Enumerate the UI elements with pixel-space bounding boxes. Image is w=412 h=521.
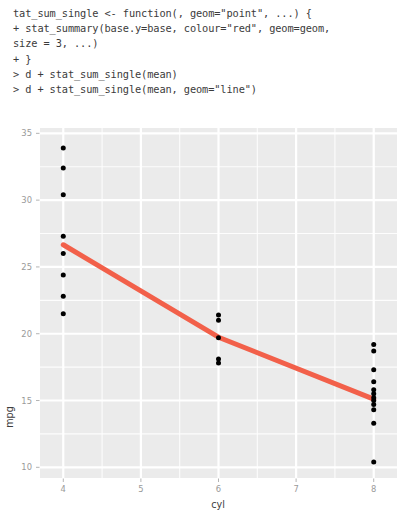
scatter-point bbox=[371, 402, 376, 407]
y-axis-title: mpg bbox=[4, 406, 15, 428]
scatter-point bbox=[216, 361, 221, 366]
scatter-point bbox=[61, 294, 66, 299]
y-tick-label: 30 bbox=[21, 195, 32, 205]
x-tick-label: 7 bbox=[293, 484, 298, 494]
scatter-point bbox=[216, 313, 221, 318]
scatter-point bbox=[371, 407, 376, 412]
x-tick-label: 4 bbox=[61, 484, 66, 494]
plot-canvas: 101520253035 45678 mpg cyl bbox=[0, 112, 412, 512]
scatter-point bbox=[371, 379, 376, 384]
scatter-point bbox=[216, 318, 221, 323]
x-axis-ticks: 45678 bbox=[61, 479, 377, 495]
y-tick-label: 20 bbox=[21, 329, 32, 339]
scatter-point bbox=[61, 272, 66, 277]
y-axis-ticks: 101520253035 bbox=[21, 128, 39, 472]
code-line: > d + stat_sum_single(mean) bbox=[13, 67, 403, 82]
scatter-point bbox=[371, 459, 376, 464]
code-line: tat_sum_single <- function(, geom="point… bbox=[13, 6, 403, 21]
scatter-point bbox=[371, 342, 376, 347]
scatter-point bbox=[61, 251, 66, 256]
code-line: + stat_summary(base.y=base, colour="red"… bbox=[13, 21, 403, 36]
scatter-point bbox=[61, 311, 66, 316]
y-tick-label: 35 bbox=[21, 128, 32, 138]
y-tick-label: 15 bbox=[21, 396, 32, 406]
y-tick-label: 25 bbox=[21, 262, 32, 272]
r-console-output: tat_sum_single <- function(, geom="point… bbox=[13, 6, 403, 97]
scatter-point bbox=[371, 367, 376, 372]
scatter-point bbox=[371, 349, 376, 354]
scatter-point bbox=[61, 146, 66, 151]
x-tick-label: 6 bbox=[216, 484, 221, 494]
scatter-point bbox=[61, 166, 66, 171]
code-line: > d + stat_sum_single(mean, geom="line") bbox=[13, 82, 403, 97]
code-line: + } bbox=[13, 52, 403, 67]
y-tick-label: 10 bbox=[21, 462, 32, 472]
scatter-point bbox=[61, 192, 66, 197]
scatter-point bbox=[371, 421, 376, 426]
x-tick-label: 8 bbox=[371, 484, 376, 494]
code-line: size = 3, ...) bbox=[13, 36, 403, 51]
x-tick-label: 5 bbox=[138, 484, 143, 494]
x-axis-title: cyl bbox=[211, 499, 225, 510]
mpg-vs-cyl-scatter-plot: 101520253035 45678 mpg cyl bbox=[0, 112, 412, 512]
scatter-point bbox=[61, 234, 66, 239]
scatter-point bbox=[216, 335, 221, 340]
